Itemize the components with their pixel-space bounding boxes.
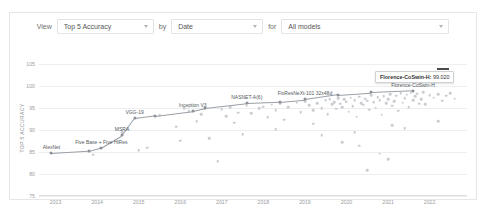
scatter-point[interactable]: [418, 103, 421, 106]
sota-point[interactable]: [204, 106, 207, 109]
scatter-point[interactable]: [405, 93, 408, 96]
scatter-point[interactable]: [208, 137, 211, 140]
scatter-point[interactable]: [437, 93, 440, 96]
scatter-point[interactable]: [432, 96, 435, 99]
sota-point[interactable]: [121, 134, 124, 137]
scatter-point[interactable]: [245, 104, 248, 107]
sota-point[interactable]: [411, 89, 414, 92]
scatter-point[interactable]: [312, 109, 315, 112]
scatter-point[interactable]: [414, 95, 417, 98]
scatter-point[interactable]: [378, 153, 381, 156]
scatter-point[interactable]: [391, 104, 394, 107]
scatter-point[interactable]: [445, 94, 448, 97]
scatter-point[interactable]: [366, 169, 369, 172]
scatter-point[interactable]: [370, 94, 373, 97]
scatter-point[interactable]: [412, 99, 415, 102]
scatter-point[interactable]: [366, 100, 369, 103]
scatter-point[interactable]: [399, 92, 402, 95]
scatter-point[interactable]: [453, 97, 456, 100]
scatter-point[interactable]: [221, 108, 224, 111]
sota-point[interactable]: [370, 91, 373, 94]
scatter-point[interactable]: [358, 144, 361, 147]
sota-point[interactable]: [191, 109, 194, 112]
scatter-point[interactable]: [441, 100, 444, 103]
scatter-point[interactable]: [374, 107, 377, 110]
scatter-point[interactable]: [391, 124, 394, 127]
sota-point[interactable]: [50, 152, 53, 155]
scatter-point[interactable]: [347, 110, 350, 113]
sota-point[interactable]: [100, 146, 103, 149]
scatter-point[interactable]: [287, 106, 290, 109]
scatter-point[interactable]: [383, 95, 386, 98]
sota-point[interactable]: [245, 101, 248, 104]
scatter-point[interactable]: [362, 103, 365, 106]
scatter-point[interactable]: [401, 101, 404, 104]
scatter-point[interactable]: [316, 102, 319, 105]
scatter-point[interactable]: [179, 139, 182, 142]
scatter-point[interactable]: [333, 101, 336, 104]
scatter-point[interactable]: [216, 160, 219, 163]
scatter-point[interactable]: [308, 104, 311, 107]
scatter-point[interactable]: [349, 96, 352, 99]
scatter-point[interactable]: [403, 127, 406, 130]
sota-point[interactable]: [303, 98, 306, 101]
scatter-point[interactable]: [368, 108, 371, 111]
scatter-point[interactable]: [387, 158, 390, 161]
scatter-point[interactable]: [275, 109, 278, 112]
scatter-point[interactable]: [341, 141, 344, 144]
scatter-point[interactable]: [428, 94, 431, 97]
sota-point[interactable]: [279, 100, 282, 103]
scatter-point[interactable]: [354, 99, 357, 102]
scatter-point[interactable]: [146, 146, 149, 149]
scatter-point[interactable]: [385, 102, 388, 105]
model-filter-select[interactable]: All models: [281, 19, 449, 34]
sota-point[interactable]: [133, 117, 136, 120]
scatter-point[interactable]: [397, 110, 400, 113]
scatter-point[interactable]: [358, 96, 361, 99]
scatter-point[interactable]: [229, 106, 232, 109]
scatter-point[interactable]: [354, 131, 357, 134]
scatter-point[interactable]: [250, 112, 253, 115]
scatter-point[interactable]: [416, 92, 419, 95]
scatter-point[interactable]: [420, 98, 423, 101]
scatter-point[interactable]: [387, 98, 390, 101]
scatter-point[interactable]: [299, 111, 302, 114]
scatter-point[interactable]: [275, 128, 278, 131]
scatter-point[interactable]: [389, 93, 392, 96]
scatter-point[interactable]: [329, 98, 332, 101]
scatter-point[interactable]: [266, 116, 269, 119]
sota-point[interactable]: [87, 150, 90, 153]
scatter-point[interactable]: [233, 121, 236, 124]
scatter-point[interactable]: [92, 153, 95, 156]
scatter-point[interactable]: [326, 113, 329, 116]
scatter-point[interactable]: [422, 91, 425, 94]
scatter-point[interactable]: [351, 105, 354, 108]
scatter-point[interactable]: [200, 113, 203, 116]
scatter-point[interactable]: [424, 103, 427, 106]
scatter-point[interactable]: [237, 111, 240, 114]
scatter-point[interactable]: [403, 97, 406, 100]
scatter-point[interactable]: [381, 114, 384, 117]
metric-select[interactable]: Top 5 Accuracy: [57, 19, 154, 34]
scatter-point[interactable]: [320, 134, 323, 137]
scatter-point[interactable]: [175, 125, 178, 128]
scatter-point[interactable]: [393, 100, 396, 103]
scatter-point[interactable]: [320, 107, 323, 110]
scatter-point[interactable]: [345, 100, 348, 103]
scatter-point[interactable]: [337, 97, 340, 100]
scatter-point[interactable]: [270, 103, 273, 106]
scatter-point[interactable]: [449, 92, 452, 95]
scatter-point[interactable]: [295, 101, 298, 104]
scatter-point[interactable]: [339, 103, 342, 106]
axis-select[interactable]: Date: [171, 19, 263, 34]
scatter-point[interactable]: [395, 94, 398, 97]
scatter-point[interactable]: [335, 107, 338, 110]
scatter-point[interactable]: [372, 101, 375, 104]
scatter-point[interactable]: [324, 99, 327, 102]
scatter-point[interactable]: [408, 106, 411, 109]
scatter-point[interactable]: [137, 149, 140, 152]
scatter-point[interactable]: [258, 107, 261, 110]
scatter-point[interactable]: [378, 99, 381, 102]
scatter-point[interactable]: [196, 120, 199, 123]
scatter-point[interactable]: [283, 118, 286, 121]
